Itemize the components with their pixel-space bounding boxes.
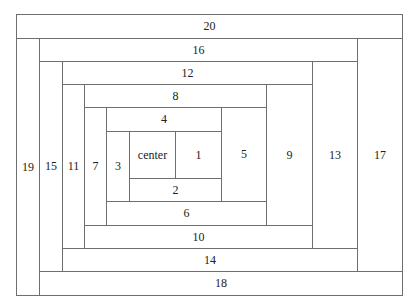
block-11: 11 bbox=[62, 84, 85, 249]
block-2: 2 bbox=[129, 178, 222, 202]
block-13: 13 bbox=[312, 61, 358, 249]
block-17: 17 bbox=[357, 38, 403, 272]
block-19: 19 bbox=[16, 38, 40, 296]
block-1: 1 bbox=[175, 131, 222, 179]
block-14: 14 bbox=[62, 248, 358, 272]
block-center: center bbox=[129, 131, 176, 179]
block-8: 8 bbox=[84, 84, 267, 108]
block-15: 15 bbox=[39, 61, 63, 272]
block-16: 16 bbox=[39, 38, 358, 62]
block-10: 10 bbox=[84, 225, 313, 249]
block-12: 12 bbox=[62, 61, 313, 85]
block-5: 5 bbox=[221, 107, 267, 202]
block-9: 9 bbox=[266, 84, 313, 226]
block-7: 7 bbox=[84, 107, 107, 226]
log-cabin-diagram: 2019181716151413121110987654321center bbox=[0, 0, 416, 307]
block-4: 4 bbox=[106, 107, 222, 132]
block-3: 3 bbox=[106, 131, 130, 202]
block-18: 18 bbox=[39, 271, 403, 296]
block-20: 20 bbox=[16, 14, 403, 39]
block-6: 6 bbox=[106, 201, 267, 226]
